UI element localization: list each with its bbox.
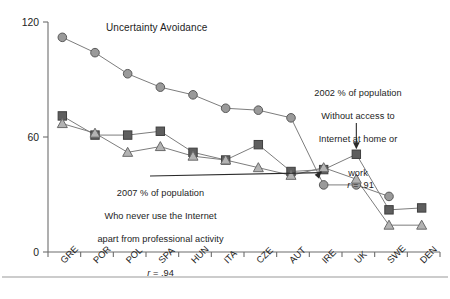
chart-figure: 120600 GREPORPOLSPAHUNITACZEAUTIREUKSWED… bbox=[0, 0, 450, 299]
x-axis-tick-uk: UK bbox=[352, 248, 370, 266]
annotation-2007-line-4: r = .94 bbox=[58, 257, 263, 280]
annotation-2002-line-3: Internet at home or bbox=[290, 134, 426, 145]
annotation-2002-line-4: work r = .91 bbox=[290, 157, 426, 191]
annotation-2007-line-3: apart from professional activity bbox=[58, 234, 263, 245]
x-axis-tick-aut: AUT bbox=[287, 244, 308, 265]
data-point-square-swe bbox=[385, 206, 393, 214]
annotation-2002-series: 2002 % of population Without access to I… bbox=[290, 77, 426, 202]
annotation-2002-line-1: 2002 % of population bbox=[290, 88, 426, 99]
data-point-circle-spa bbox=[156, 83, 165, 92]
annotation-2007-line-2: Who never use the Internet bbox=[58, 211, 263, 222]
data-point-square-spa bbox=[156, 127, 164, 135]
annotation-2002-r-value: = .91 bbox=[350, 180, 374, 190]
data-point-circle-cze bbox=[254, 106, 263, 115]
annotation-2007-line-1: 2007 % of population bbox=[58, 188, 263, 199]
data-point-circle-hun bbox=[189, 91, 198, 100]
data-point-triangle-spa bbox=[155, 142, 165, 151]
data-point-circle-ita bbox=[221, 104, 230, 113]
data-point-square-den bbox=[417, 204, 425, 212]
y-axis-label-0: 0 bbox=[33, 247, 39, 258]
data-point-square-pol bbox=[123, 131, 131, 139]
y-axis-label-120: 120 bbox=[22, 17, 40, 28]
annotation-2002-work-word: work bbox=[348, 168, 368, 178]
y-axis-label-60: 60 bbox=[27, 132, 39, 143]
annotation-2007-series: 2007 % of population Who never use the I… bbox=[58, 177, 263, 291]
series-label-uncertainty-avoidance: Uncertainty Avoidance bbox=[106, 22, 207, 33]
data-point-circle-por bbox=[91, 48, 100, 57]
x-axis-tick-den: DEN bbox=[417, 244, 439, 266]
annotation-2007-r-value: = .94 bbox=[150, 268, 174, 278]
data-point-circle-gre bbox=[58, 33, 67, 42]
x-axis-tick-ire: IRE bbox=[319, 247, 338, 266]
data-point-circle-pol bbox=[123, 69, 132, 78]
x-axis-tick-swe: SWE bbox=[385, 243, 408, 266]
data-point-square-cze bbox=[254, 140, 262, 148]
annotation-2002-line-2: Without access to bbox=[290, 111, 426, 122]
